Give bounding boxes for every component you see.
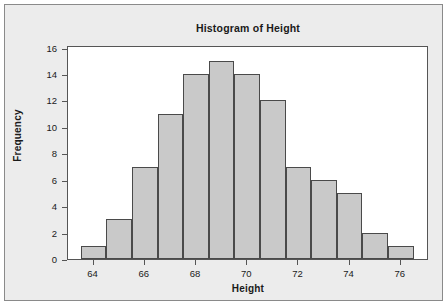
y-axis-label: Frequency (12, 91, 23, 181)
histogram-bar (209, 61, 235, 259)
histogram-bar (286, 167, 312, 259)
x-tick-label: 68 (180, 268, 210, 279)
y-tick-label: 10 (31, 122, 57, 133)
histogram-bar (81, 246, 107, 259)
bars-layer (68, 47, 427, 259)
y-tick-mark (62, 234, 67, 235)
y-tick-mark (62, 260, 67, 261)
x-tick-label: 74 (334, 268, 364, 279)
histogram-bar (106, 219, 132, 259)
x-tick-label: 66 (129, 268, 159, 279)
y-tick-label: 6 (31, 175, 57, 186)
chart-title: Histogram of Height (67, 22, 429, 34)
y-tick-label: 8 (31, 148, 57, 159)
y-tick-label: 0 (31, 254, 57, 265)
x-tick-label: 64 (78, 268, 108, 279)
x-tick-mark (297, 260, 298, 265)
x-tick-mark (144, 260, 145, 265)
plot-area (67, 46, 428, 260)
y-tick-label: 2 (31, 228, 57, 239)
y-tick-label: 4 (31, 201, 57, 212)
histogram-bar (183, 74, 209, 259)
histogram-bar (311, 180, 337, 259)
x-axis-label: Height (67, 283, 429, 294)
histogram-bar (132, 167, 158, 259)
x-tick-mark (400, 260, 401, 265)
histogram-bar (388, 246, 414, 259)
y-tick-label: 14 (31, 69, 57, 80)
y-tick-mark (62, 49, 67, 50)
x-tick-label: 72 (282, 268, 312, 279)
y-tick-mark (62, 207, 67, 208)
x-tick-label: 76 (385, 268, 415, 279)
y-tick-mark (62, 128, 67, 129)
x-tick-mark (349, 260, 350, 265)
x-tick-mark (93, 260, 94, 265)
histogram-bar (337, 193, 363, 259)
x-tick-label: 70 (231, 268, 261, 279)
x-tick-mark (246, 260, 247, 265)
y-tick-label: 12 (31, 95, 57, 106)
y-tick-label: 16 (31, 43, 57, 54)
y-tick-mark (62, 181, 67, 182)
x-tick-mark (195, 260, 196, 265)
histogram-figure: Histogram of Height Frequency Height 024… (0, 0, 447, 308)
histogram-bar (362, 233, 388, 259)
y-tick-mark (62, 75, 67, 76)
y-tick-mark (62, 154, 67, 155)
histogram-bar (260, 100, 286, 259)
histogram-bar (158, 114, 184, 259)
figure-border: Histogram of Height Frequency Height 024… (4, 4, 443, 301)
y-tick-mark (62, 101, 67, 102)
histogram-bar (234, 74, 260, 259)
